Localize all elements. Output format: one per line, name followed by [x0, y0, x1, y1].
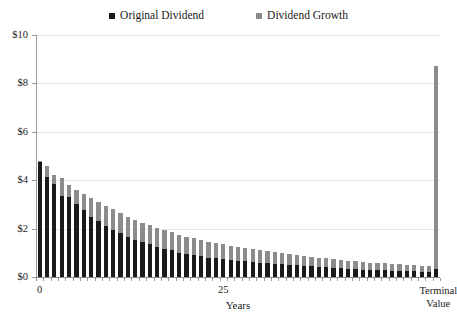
- x-axis-tick: [396, 278, 397, 281]
- x-axis-tick: [308, 278, 309, 281]
- x-axis-tick: [330, 278, 331, 281]
- x-axis-tick: [227, 278, 228, 281]
- y-axis-tick-label: $10: [12, 30, 28, 41]
- y-axis-tick: [32, 132, 36, 133]
- x-axis-tick: [124, 278, 125, 281]
- bar-year: [155, 228, 159, 277]
- bar-segment-original-dividend: [375, 270, 379, 277]
- x-axis-tick: [43, 278, 44, 281]
- bar-segment-original-dividend: [258, 263, 262, 278]
- legend-swatch-dividend-growth: [256, 13, 262, 19]
- x-axis-tick: [242, 278, 243, 281]
- bar-year: [170, 232, 174, 277]
- bar-segment-original-dividend: [243, 261, 247, 277]
- bar-segment-original-dividend: [229, 260, 233, 277]
- bar-segment-original-dividend: [45, 177, 49, 277]
- bar-segment-dividend-growth: [251, 249, 255, 262]
- bar-segment-original-dividend: [405, 271, 409, 277]
- x-axis-title: Years: [36, 300, 440, 311]
- bar-segment-dividend-growth: [309, 257, 313, 267]
- bar-segment-original-dividend: [104, 226, 108, 277]
- bar-year: [309, 257, 313, 277]
- bar-segment-original-dividend: [162, 249, 166, 277]
- bar-year: [133, 220, 137, 277]
- bar-segment-dividend-growth: [148, 225, 152, 244]
- bar-year: [420, 266, 424, 277]
- bar-year: [412, 265, 416, 277]
- x-axis-tick: [139, 278, 140, 281]
- bar-segment-dividend-growth: [104, 206, 108, 227]
- x-axis-tick: [36, 278, 37, 281]
- bar-segment-original-dividend: [184, 254, 188, 277]
- bar-segment-original-dividend: [412, 271, 416, 277]
- x-axis-tick: [205, 278, 206, 281]
- x-axis-tick: [168, 278, 169, 281]
- bar-year: [82, 194, 86, 277]
- bar-year: [38, 161, 42, 277]
- y-axis-tick-label: $2: [18, 223, 29, 234]
- bar-segment-dividend-growth: [331, 259, 335, 268]
- x-axis-tick: [212, 278, 213, 281]
- bar-year: [214, 243, 218, 277]
- x-axis-ticks: [36, 278, 440, 282]
- bar-year: [162, 230, 166, 277]
- bar-segment-original-dividend: [420, 272, 424, 277]
- bar-segment-dividend-growth: [74, 190, 78, 205]
- x-axis-tick: [183, 278, 184, 281]
- bar-segment-original-dividend: [273, 264, 277, 277]
- bar-segment-dividend-growth: [258, 250, 262, 262]
- x-axis-tick: [271, 278, 272, 281]
- bar-year: [295, 255, 299, 277]
- bar-year: [265, 251, 269, 277]
- bar-year: [184, 237, 188, 277]
- bar-segment-dividend-growth: [52, 175, 56, 183]
- bar-segment-dividend-growth: [243, 248, 247, 261]
- bar-segment-dividend-growth: [265, 251, 269, 263]
- bar-year: [397, 264, 401, 277]
- x-axis-tick: [440, 278, 441, 281]
- bar-segment-dividend-growth: [184, 237, 188, 254]
- bar-segment-original-dividend: [82, 210, 86, 277]
- bar-year: [390, 264, 394, 277]
- bar-segment-original-dividend: [140, 242, 144, 277]
- bar-segment-dividend-growth: [287, 254, 291, 265]
- x-axis-tick: [315, 278, 316, 281]
- bar-year: [126, 217, 130, 278]
- bar-segment-dividend-growth: [60, 178, 64, 196]
- bar-segment-dividend-growth: [111, 209, 115, 230]
- bar-segment-original-dividend: [295, 265, 299, 277]
- y-axis-tick: [32, 229, 36, 230]
- y-axis-labels: $0$2$4$6$8$10: [0, 35, 34, 277]
- bar-segment-original-dividend: [96, 221, 100, 277]
- y-axis-tick-label: $0: [18, 272, 29, 283]
- bar-segment-dividend-growth: [361, 262, 365, 270]
- bar-year: [177, 235, 181, 277]
- x-axis-tick: [73, 278, 74, 281]
- x-axis-tick: [374, 278, 375, 281]
- bar-segment-original-dividend: [192, 255, 196, 277]
- x-axis-tick: [293, 278, 294, 281]
- legend-label-original-dividend: Original Dividend: [120, 10, 204, 22]
- legend-label-dividend-growth: Dividend Growth: [267, 10, 348, 22]
- x-axis-tick: [131, 278, 132, 281]
- bar-year: [74, 190, 78, 277]
- bar-segment-original-dividend: [133, 240, 137, 278]
- bar-segment-original-dividend: [427, 272, 431, 277]
- bar-segment-original-dividend: [214, 258, 218, 277]
- bar-segment-original-dividend: [331, 268, 335, 277]
- bar-year: [118, 213, 122, 277]
- bar-segment-dividend-growth: [295, 255, 299, 265]
- x-axis-tick: [300, 278, 301, 281]
- bar-segment-original-dividend: [60, 196, 64, 277]
- x-axis-tick: [433, 278, 434, 281]
- bar-segment-original-dividend: [89, 217, 93, 277]
- bar-segment-original-dividend: [309, 266, 313, 277]
- bar-segment-original-dividend: [346, 269, 350, 277]
- x-axis-tick: [352, 278, 353, 281]
- bar-terminal-value: [434, 66, 438, 277]
- x-axis-tick: [146, 278, 147, 281]
- x-axis-tick: [51, 278, 52, 281]
- bar-segment-dividend-growth: [45, 166, 49, 177]
- bar-segment-original-dividend: [111, 230, 115, 277]
- bar-segment-dividend-growth: [177, 235, 181, 253]
